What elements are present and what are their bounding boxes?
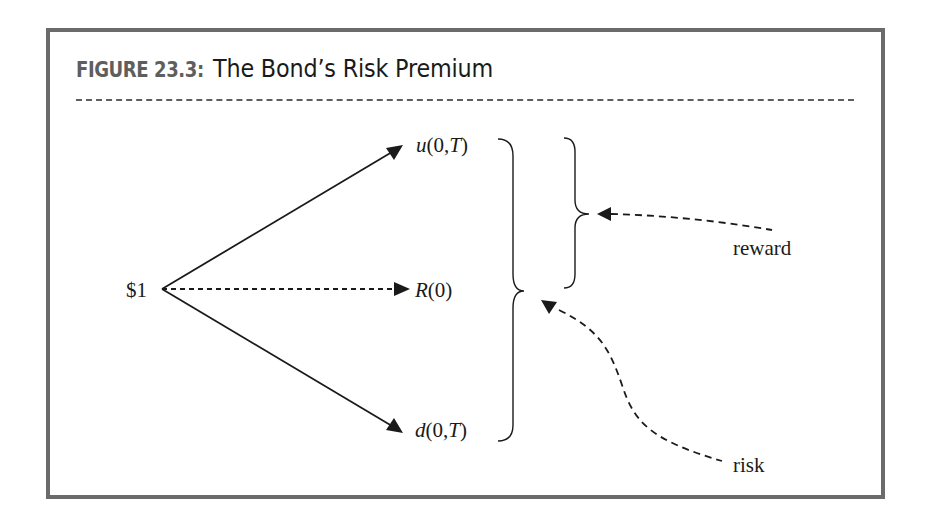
- risk-label: risk: [733, 455, 765, 476]
- down-branch-arrow: [162, 289, 403, 433]
- down-func: d: [415, 418, 426, 442]
- reward-pointer-arrow: [597, 207, 772, 230]
- risk-pointer-arrow: [541, 300, 722, 461]
- riskless-node-label: R(0): [415, 280, 452, 301]
- up-branch-arrow: [162, 145, 403, 289]
- riskless-func: R: [415, 278, 428, 302]
- reward-brace: [564, 138, 589, 288]
- down-node-label: d(0,T): [415, 420, 467, 441]
- risk-premium-diagram: [0, 0, 926, 529]
- reward-label: reward: [733, 238, 791, 259]
- riskless-branch-arrow: [162, 282, 410, 296]
- root-label: $1: [126, 280, 147, 301]
- up-func: u: [416, 133, 427, 157]
- risk-brace: [498, 139, 524, 441]
- up-node-label: u(0,T): [416, 135, 468, 156]
